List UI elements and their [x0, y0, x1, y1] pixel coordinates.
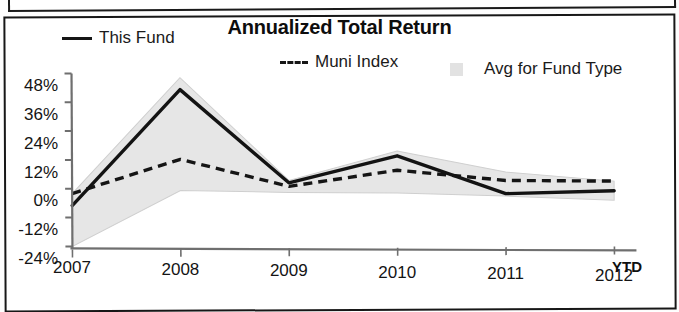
- x-tick-label: 2010: [378, 263, 416, 283]
- x-tick-label: 2009: [270, 261, 308, 281]
- x-tick-label: 2007: [53, 258, 91, 278]
- x-axis-labels: 200720082009201020112012: [0, 14, 679, 311]
- x-tick-label: 2011: [487, 264, 524, 284]
- x-tick-label: 2008: [161, 260, 199, 280]
- chart-area: Annualized Total Return This Fund Muni I…: [0, 14, 679, 311]
- upper-document-frame: [8, 0, 676, 12]
- ytd-annotation: YTD: [612, 258, 642, 275]
